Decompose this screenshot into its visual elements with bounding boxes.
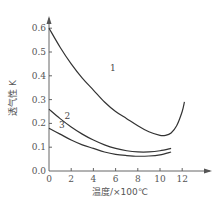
x-tick-label: 0 [46,174,52,184]
y-tick-label: 0.2 [32,118,46,128]
curve-labels: 123 [59,63,116,130]
y-tick-label: 0.6 [32,23,47,33]
curve-label-3: 3 [59,120,65,130]
x-axis-label: 温度/×100℃ [92,186,148,197]
x-tick-label: 6 [113,174,119,184]
x-tick-label: 10 [154,174,166,184]
x-tick-label: 2 [68,174,74,184]
x-tick-label: 8 [135,174,141,184]
x-tick-label: 4 [91,174,97,184]
curve-label-1: 1 [110,63,116,73]
y-axis-arrow [47,16,52,24]
curves [49,28,184,156]
curve-label-2: 2 [65,111,71,121]
y-tick-label: 0.1 [32,142,46,152]
y-tick-label: 0.0 [32,166,47,176]
axes [47,16,213,174]
y-axis-label: 透气性 K [7,79,18,116]
x-axis-arrow [204,169,212,174]
x-tick-label: 12 [176,174,187,184]
y-tick-label: 0.4 [32,71,47,81]
y-tick-label: 0.5 [32,47,47,57]
ticks: 0246810120.00.10.20.30.40.50.6 [32,23,188,184]
y-tick-label: 0.3 [32,95,47,105]
chart: 0246810120.00.10.20.30.40.50.6 123 温度/×1… [0,0,221,209]
